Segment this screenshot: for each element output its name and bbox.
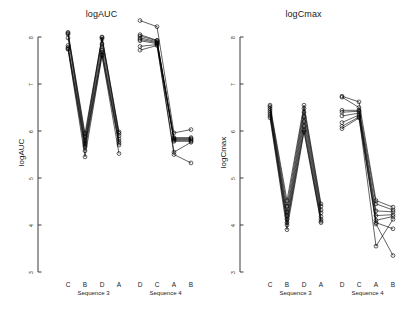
svg-text:B: B	[189, 281, 193, 288]
svg-text:8: 8	[28, 36, 34, 39]
svg-text:Sequence 4: Sequence 4	[149, 290, 182, 296]
svg-text:Sequence 4: Sequence 4	[351, 290, 384, 296]
svg-text:A: A	[319, 281, 324, 288]
panel-logauc: logAUC logAUC 345678CBDASequence 3DCABSe…	[0, 0, 203, 316]
svg-text:C: C	[155, 281, 160, 288]
svg-text:D: D	[302, 281, 307, 288]
panel-logcmax: logCmax logCmax 345678CBDASequence 3DCAB…	[202, 0, 405, 316]
svg-text:C: C	[357, 281, 362, 288]
svg-text:B: B	[391, 281, 395, 288]
plot-area-logauc: 345678CBDASequence 3DCABSequence 4	[0, 0, 203, 316]
svg-text:Sequence 3: Sequence 3	[77, 290, 110, 296]
svg-text:D: D	[138, 281, 143, 288]
svg-text:C: C	[66, 281, 71, 288]
svg-text:D: D	[100, 281, 105, 288]
svg-text:5: 5	[28, 177, 34, 180]
svg-text:6: 6	[230, 130, 236, 133]
svg-text:8: 8	[230, 36, 236, 39]
svg-text:4: 4	[230, 224, 236, 227]
svg-text:A: A	[117, 281, 122, 288]
svg-text:5: 5	[230, 177, 236, 180]
svg-text:B: B	[83, 281, 87, 288]
figure-canvas: logAUC logAUC 345678CBDASequence 3DCABSe…	[0, 0, 405, 316]
svg-text:6: 6	[28, 130, 34, 133]
svg-text:A: A	[374, 281, 379, 288]
svg-text:B: B	[285, 281, 289, 288]
svg-text:A: A	[172, 281, 177, 288]
svg-text:D: D	[340, 281, 345, 288]
svg-text:C: C	[268, 281, 273, 288]
plot-area-logcmax: 345678CBDASequence 3DCABSequence 4	[202, 0, 405, 316]
svg-text:3: 3	[28, 271, 34, 274]
svg-text:Sequence 3: Sequence 3	[279, 290, 312, 296]
svg-text:7: 7	[230, 83, 236, 86]
svg-text:7: 7	[28, 83, 34, 86]
svg-text:3: 3	[230, 271, 236, 274]
svg-text:4: 4	[28, 224, 34, 227]
